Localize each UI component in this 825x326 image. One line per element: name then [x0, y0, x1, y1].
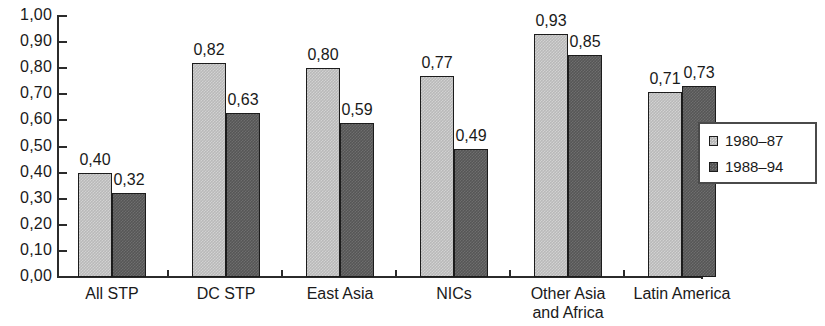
x-axis-category-label: Other Asia and Africa [511, 284, 625, 322]
x-axis-category-label: Latin America [625, 284, 739, 303]
y-axis-tick [57, 224, 67, 226]
bar [112, 193, 146, 277]
bar [340, 123, 374, 277]
bar [534, 34, 568, 277]
bar-value-label: 0,40 [73, 152, 117, 168]
y-axis-tick-label-text: 0,00 [4, 268, 52, 284]
y-axis-tick-label-text: 0,70 [4, 85, 52, 101]
bar-value-label: 0,63 [221, 92, 265, 108]
legend-label-1: 1988–94 [725, 159, 783, 175]
x-axis-tick [395, 270, 397, 278]
x-axis-category-label: DC STP [169, 284, 283, 303]
bar-value-label: 0,77 [415, 55, 459, 71]
bar-value-label: 0,73 [677, 65, 721, 81]
bar [306, 68, 340, 277]
y-axis-tick-label: 0,70 [0, 85, 52, 101]
y-axis-tick [57, 250, 67, 252]
x-axis-tick [167, 270, 169, 278]
y-axis-tick-label-text: 0,60 [4, 111, 52, 127]
y-axis-tick [57, 146, 67, 148]
y-axis-tick-label: 0,10 [0, 242, 52, 258]
y-axis-tick [57, 198, 67, 200]
y-axis-tick-label: 0,00 [0, 268, 52, 284]
y-axis-tick-label: 0,50 [0, 138, 52, 154]
bar-value-label: 0,59 [335, 102, 379, 118]
y-axis-tick-label-text: 0,10 [4, 242, 52, 258]
y-axis-tick-label: 0,30 [0, 190, 52, 206]
y-axis-tick [57, 67, 67, 69]
x-axis-category-label: NICs [397, 284, 511, 303]
bar [648, 92, 682, 277]
bar [454, 149, 488, 277]
x-axis-category-label: All STP [55, 284, 169, 303]
y-axis-tick [57, 119, 67, 121]
x-axis-tick [281, 270, 283, 278]
legend-swatch-dark-icon [709, 162, 718, 172]
bar-value-label: 0,85 [563, 34, 607, 50]
x-axis-tick [509, 270, 511, 278]
y-axis-tick-label-text: 1,00 [4, 7, 52, 23]
y-axis-tick-label-text: 0,40 [4, 164, 52, 180]
y-axis-tick-label: 1,00 [0, 7, 52, 23]
bar [226, 113, 260, 277]
y-axis-tick-label: 0,20 [0, 216, 52, 232]
legend-swatch-light-icon [709, 136, 718, 146]
legend: 1980–87 1988–94 [698, 122, 817, 184]
bar-value-label: 0,80 [301, 47, 345, 63]
bar-value-label: 0,93 [529, 13, 573, 29]
y-axis-tick-label: 0,40 [0, 164, 52, 180]
y-axis-tick [57, 15, 67, 17]
y-axis-tick [57, 41, 67, 43]
x-axis-line [57, 276, 703, 278]
bar [568, 55, 602, 277]
bar-value-label: 0,49 [449, 128, 493, 144]
legend-item-1[interactable]: 1988–94 [709, 159, 783, 175]
x-axis-tick [623, 270, 625, 278]
y-axis-tick [57, 172, 67, 174]
y-axis-tick-label-text: 0,80 [4, 59, 52, 75]
y-axis-tick-label: 0,80 [0, 59, 52, 75]
bar-chart: 1,000,900,800,700,600,500,400,300,200,10… [0, 0, 825, 326]
legend-label-0: 1980–87 [725, 133, 783, 149]
bar [78, 173, 112, 277]
bar [420, 76, 454, 277]
y-axis-tick-label: 0,90 [0, 33, 52, 49]
y-axis-tick-label-text: 0,90 [4, 33, 52, 49]
y-axis-tick-label-text: 0,20 [4, 216, 52, 232]
bar-value-label: 0,32 [107, 172, 151, 188]
y-axis-tick-label: 0,60 [0, 111, 52, 127]
y-axis-tick-label-text: 0,30 [4, 190, 52, 206]
legend-item-0[interactable]: 1980–87 [709, 133, 783, 149]
y-axis-tick [57, 93, 67, 95]
x-axis-category-label: East Asia [283, 284, 397, 303]
bar-value-label: 0,82 [187, 42, 231, 58]
y-axis-tick-label-text: 0,50 [4, 138, 52, 154]
